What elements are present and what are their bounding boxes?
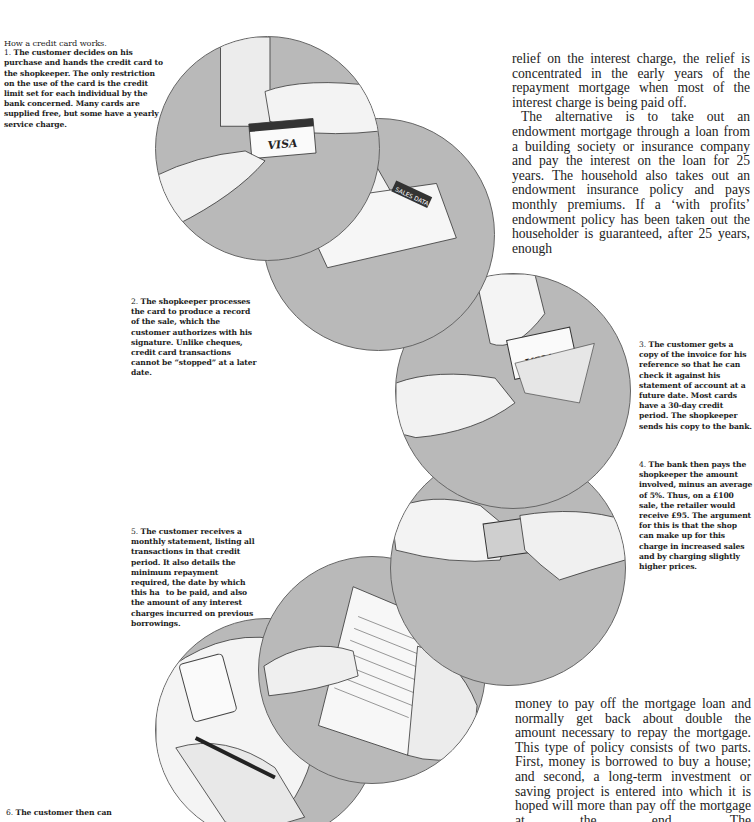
article-paragraph: The alternative is to take out an endowm… <box>512 110 750 256</box>
step-text: The bank then pays the shopkeeper the am… <box>639 460 752 571</box>
article-paragraph: relief on the interest charge, the relie… <box>512 52 750 110</box>
article-paragraph: money to pay off the mortgage loan and n… <box>515 697 751 822</box>
step-2-caption: 2. The shopkeeper processes the card to … <box>131 297 259 379</box>
step-text: The customer decides on his purchase and… <box>4 48 163 128</box>
step-number: 1. <box>4 48 11 57</box>
step-3-caption: 3. The customer gets a copy of the invoi… <box>639 340 754 432</box>
diagram-title: How a credit card works. <box>4 38 164 48</box>
step-4-caption: 4. The bank then pays the shopkeeper the… <box>639 460 754 572</box>
step-1-caption: How a credit card works. 1. The customer… <box>4 38 164 130</box>
step-text: The shopkeeper processes the card to pro… <box>131 297 256 377</box>
article-text-bottom: money to pay off the mortgage loan and n… <box>515 697 751 822</box>
step-text: The customer then can <box>16 808 112 817</box>
step-5-caption: 5. The customer receives a monthly state… <box>131 527 259 629</box>
article-text-top: relief on the interest charge, the relie… <box>512 52 750 256</box>
step-text: The customer gets a copy of the invoice … <box>639 340 752 431</box>
step-number: 2. <box>131 297 138 306</box>
step-number: 3. <box>639 340 646 349</box>
step-6-caption: 6. The customer then can <box>6 808 146 818</box>
step-text: The customer receives a monthly statemen… <box>131 527 254 628</box>
svg-text:VISA: VISA <box>267 137 298 153</box>
step-number: 6. <box>6 808 13 817</box>
hands-visa-card-icon: VISA <box>156 37 379 260</box>
illustration-card-handover: VISA <box>155 36 380 261</box>
step-number: 5. <box>131 527 138 536</box>
step-number: 4. <box>639 460 646 469</box>
